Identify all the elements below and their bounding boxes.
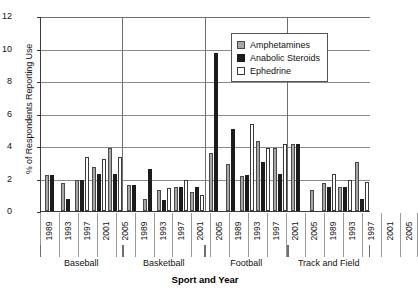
- year-cluster: [337, 17, 353, 211]
- bar: [66, 199, 70, 211]
- year-label-cell: 2005: [116, 213, 135, 257]
- x-tick-line: [362, 213, 363, 257]
- bar: [92, 167, 96, 211]
- bar: [97, 174, 101, 211]
- year-label-cell: 1993: [248, 213, 267, 257]
- x-tick-line: [400, 213, 401, 257]
- bar: [245, 175, 249, 211]
- x-tick-line: [154, 213, 155, 257]
- x-tick-line: [172, 213, 173, 257]
- y-tick-label: 10: [0, 45, 12, 54]
- y-tick-label: 8: [0, 77, 12, 86]
- year-label: 2005: [404, 222, 414, 241]
- sport-label-cell: Track and Field: [288, 255, 371, 273]
- year-label-cell: 1989: [40, 213, 59, 257]
- year-label-cell: 2001: [191, 213, 210, 257]
- sport-label: Basketball: [143, 258, 185, 268]
- year-label-cell: 1993: [59, 213, 78, 257]
- year-cluster: [41, 17, 57, 211]
- year-label: 2005: [215, 222, 225, 241]
- x-axis-sport-labels: BaseballBasketballFootballTrack and Fiel…: [40, 255, 370, 273]
- bar: [226, 164, 230, 211]
- year-label-cell: 2001: [381, 213, 400, 257]
- year-label: 1989: [328, 222, 338, 241]
- year-cluster: [90, 17, 106, 211]
- sport-band-tick: [205, 245, 206, 257]
- year-cluster: [123, 17, 139, 211]
- sport-group: [41, 17, 123, 211]
- bar: [240, 176, 244, 211]
- sport-label-cell: Baseball: [40, 255, 123, 273]
- year-label: 2001: [290, 222, 300, 241]
- x-tick-line: [78, 213, 79, 257]
- y-axis-title: % of Respondents Reporting Use: [24, 14, 34, 204]
- year-label-cell: 2001: [286, 213, 305, 257]
- sport-label: Football: [230, 258, 262, 268]
- sport-label: Baseball: [64, 258, 99, 268]
- x-tick-line: [381, 213, 382, 257]
- bar: [343, 187, 347, 211]
- bar: [132, 185, 136, 211]
- bar: [348, 180, 352, 211]
- x-tick-line: [97, 213, 98, 257]
- bar: [157, 190, 161, 211]
- bar: [127, 185, 131, 211]
- year-label-group: 19891993199720012005: [229, 213, 324, 257]
- y-tick-label: 6: [0, 110, 12, 119]
- bar: [310, 190, 314, 211]
- y-tick-label: 0: [0, 207, 12, 216]
- year-label: 1989: [44, 222, 54, 241]
- year-label: 1989: [234, 222, 244, 241]
- x-tick-line: [210, 213, 211, 257]
- year-label-cell: 1997: [78, 213, 97, 257]
- legend-item: Amphetamines: [237, 38, 320, 51]
- bar: [231, 129, 235, 211]
- bar: [256, 141, 260, 211]
- bar: [266, 148, 270, 211]
- year-cluster: [107, 17, 123, 211]
- bar: [174, 187, 178, 211]
- year-label-cell: 2005: [400, 213, 418, 257]
- year-cluster: [74, 17, 90, 211]
- year-label: 2005: [120, 222, 130, 241]
- legend-item: Ephedrine: [237, 64, 320, 77]
- sport-label-cell: Basketball: [123, 255, 206, 273]
- legend-swatch-icon: [237, 67, 245, 75]
- x-tick-line: [59, 213, 60, 257]
- year-label: 1993: [253, 222, 263, 241]
- sport-band-tick: [123, 245, 124, 257]
- year-label-cell: 1997: [267, 213, 286, 257]
- year-label-group: 19891993199720012005: [135, 213, 230, 257]
- year-label-cell: 1997: [172, 213, 191, 257]
- bar: [85, 157, 89, 211]
- bar: [214, 53, 218, 211]
- year-label-cell: 2001: [97, 213, 116, 257]
- bar: [278, 174, 282, 211]
- year-cluster: [206, 17, 222, 211]
- bar: [338, 187, 342, 211]
- bar: [195, 187, 199, 211]
- sport-band-tick: [288, 245, 289, 257]
- sport-group: [123, 17, 205, 211]
- year-label: 1997: [82, 222, 92, 241]
- bar: [162, 200, 166, 211]
- legend-swatch-icon: [237, 41, 245, 49]
- bar: [209, 153, 213, 212]
- year-label: 2001: [196, 222, 206, 241]
- year-label: 1993: [158, 222, 168, 241]
- bar: [75, 180, 79, 211]
- x-tick-line: [135, 213, 136, 257]
- x-axis-title: Sport and Year: [40, 274, 370, 285]
- year-cluster: [173, 17, 189, 211]
- bar: [355, 162, 359, 211]
- year-cluster: [57, 17, 73, 211]
- y-tick-label: 4: [0, 142, 12, 151]
- bar: [167, 188, 171, 211]
- bar: [50, 175, 54, 211]
- x-tick-line: [229, 213, 230, 257]
- legend-label: Anabolic Steroids: [250, 53, 320, 63]
- year-label-cell: 2005: [305, 213, 324, 257]
- sport-band-tick: [40, 245, 41, 257]
- x-tick-line: [305, 213, 306, 257]
- year-label-cell: 1993: [154, 213, 173, 257]
